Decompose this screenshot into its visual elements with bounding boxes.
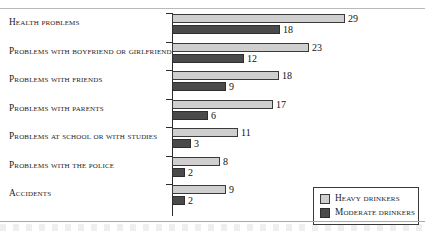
category-label: Accidents [9, 188, 51, 198]
legend-label: Heavy drinkers [335, 193, 400, 203]
bar-moderate [172, 196, 185, 205]
bar-heavy [172, 100, 273, 109]
bar-value-moderate: 6 [211, 110, 216, 121]
legend-swatch-icon [320, 208, 330, 218]
bar-value-heavy: 8 [223, 156, 228, 167]
category-label: Problems at school or with studies [9, 131, 157, 141]
category-label: Health problems [9, 17, 80, 27]
bar-value-moderate: 2 [188, 167, 193, 178]
bar-value-heavy: 17 [276, 99, 286, 110]
bar-value-heavy: 11 [241, 127, 251, 138]
bar-value-heavy: 18 [282, 70, 292, 81]
bar-value-heavy: 23 [312, 42, 322, 53]
legend-label: Moderate drinkers [335, 207, 415, 217]
bar-heavy [172, 185, 226, 194]
legend-swatch-icon [320, 194, 330, 204]
top-divider-rule [0, 8, 425, 9]
category-label: Problems with the police [9, 160, 114, 170]
bar-heavy [172, 128, 238, 137]
bar-group: Health problems 29 18 [0, 12, 425, 41]
bar-value-heavy: 29 [348, 13, 358, 24]
bar-moderate [172, 25, 280, 34]
bar-heavy [172, 14, 345, 23]
bar-value-moderate: 3 [194, 138, 199, 149]
bar-group: Problems at school or with studies 11 3 [0, 126, 425, 155]
bar-heavy [172, 43, 309, 52]
bar-value-moderate: 2 [188, 195, 193, 206]
bottom-divider-rule [0, 221, 425, 222]
chart-legend: Heavy drinkers Moderate drinkers [313, 187, 419, 225]
bar-moderate [172, 168, 185, 177]
scan-bleed-artifact [0, 224, 425, 231]
bar-group: Problems with boyfriend or girlfriend 23… [0, 41, 425, 70]
bar-value-moderate: 18 [283, 24, 293, 35]
bar-group: Problems with parents 17 6 [0, 98, 425, 127]
category-label: Problems with friends [9, 74, 102, 84]
category-label: Problems with parents [9, 103, 104, 113]
bar-moderate [172, 54, 244, 63]
bar-value-heavy: 9 [229, 184, 234, 195]
bar-moderate [172, 111, 208, 120]
category-label: Problems with boyfriend or girlfriend [9, 46, 172, 56]
bar-group: Problems with friends 18 9 [0, 69, 425, 98]
bar-value-moderate: 9 [229, 81, 234, 92]
bar-moderate [172, 139, 191, 148]
bar-group: Problems with the police 8 2 [0, 155, 425, 184]
bar-value-moderate: 12 [247, 53, 257, 64]
bar-moderate [172, 82, 226, 91]
plot-area: Health problems 29 18 Problems with boyf… [0, 12, 425, 218]
chart-page: Health problems 29 18 Problems with boyf… [0, 0, 425, 231]
bar-heavy [172, 71, 279, 80]
bar-heavy [172, 157, 220, 166]
